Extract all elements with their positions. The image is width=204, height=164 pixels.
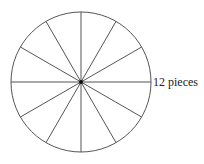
division-line (81, 82, 142, 117)
division-line (46, 82, 81, 143)
division-line (46, 21, 81, 82)
division-line (81, 47, 142, 82)
division-line (81, 21, 116, 82)
pieces-label: 12 pieces (153, 75, 198, 90)
division-line (20, 47, 81, 82)
division-line (81, 82, 116, 143)
division-line (20, 82, 81, 117)
center-dot (79, 80, 83, 84)
